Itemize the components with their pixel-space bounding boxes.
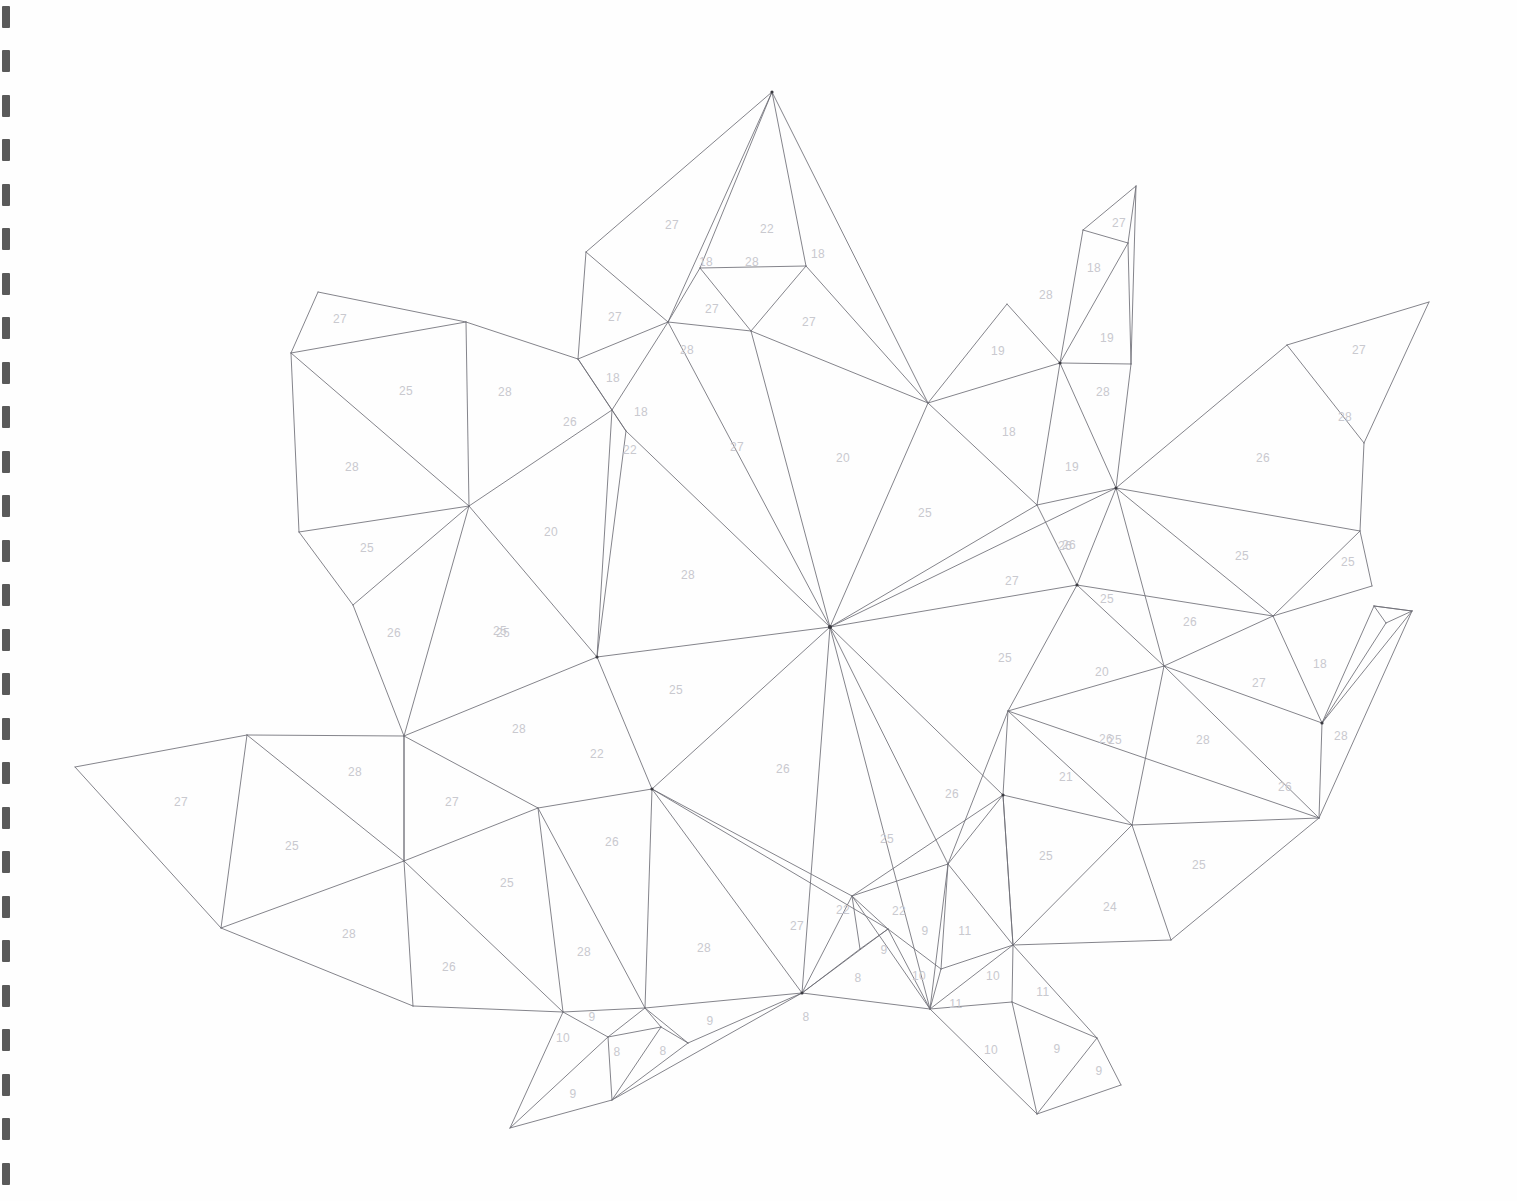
face-label: 26 — [945, 787, 959, 801]
face-label: 26 — [1058, 539, 1072, 553]
face-label: 11 — [949, 997, 962, 1011]
face-label: 19 — [991, 344, 1005, 358]
face-label: 26 — [605, 835, 619, 849]
face-label: 18 — [1313, 657, 1327, 671]
face-label: 22 — [836, 903, 850, 917]
face-label: 28 — [1096, 385, 1110, 399]
face-label: 27 — [333, 312, 347, 326]
face-label: 28 — [697, 941, 711, 955]
face-label: 28 — [1334, 729, 1348, 743]
face-label: 9 — [706, 1014, 713, 1028]
face-label: 27 — [608, 310, 622, 324]
face-label: 25 — [669, 683, 683, 697]
face-label: 27 — [1352, 343, 1366, 357]
face-label: 25 — [500, 876, 514, 890]
face-label: 19 — [1065, 460, 1079, 474]
face-label: 26 — [1278, 780, 1292, 794]
face-number-labels: 2722181828272727282725281826182228272025… — [174, 216, 1366, 1101]
face-label: 9 — [880, 943, 887, 957]
face-label: 10 — [984, 1043, 998, 1057]
face-label: 27 — [445, 795, 459, 809]
face-label: 25 — [360, 541, 374, 555]
face-label: 27 — [1112, 216, 1126, 230]
face-label: 22 — [590, 747, 604, 761]
face-label: 18 — [1002, 425, 1016, 439]
face-label: 11 — [1036, 985, 1049, 999]
face-label: 18 — [811, 247, 825, 261]
face-label: 27 — [705, 302, 719, 316]
face-label: 25 — [1341, 555, 1355, 569]
face-label: 25 — [285, 839, 299, 853]
face-label: 25 — [1108, 733, 1122, 747]
face-label: 28 — [680, 343, 694, 357]
low-poly-leaf-diagram: 2722181828272727282725281826182228272025… — [0, 0, 1517, 1201]
face-label: 18 — [606, 371, 620, 385]
face-label: 11 — [958, 924, 971, 938]
face-label: 28 — [577, 945, 591, 959]
face-label: 27 — [730, 440, 744, 454]
scanned-page: 2722181828272727282725281826182228272025… — [0, 0, 1517, 1201]
face-label: 27 — [1252, 676, 1266, 690]
face-label: 27 — [665, 218, 679, 232]
face-label: 28 — [745, 255, 759, 269]
face-label: 26 — [776, 762, 790, 776]
face-label: 27 — [802, 315, 816, 329]
face-label: 10 — [912, 969, 926, 983]
face-label: 10 — [556, 1031, 570, 1045]
face-label: 8 — [802, 1010, 809, 1024]
face-label: 20 — [836, 451, 850, 465]
face-label: 25 — [1100, 592, 1114, 606]
face-label: 27 — [1005, 574, 1019, 588]
face-label: 24 — [1103, 900, 1117, 914]
face-label: 9 — [569, 1087, 576, 1101]
face-label: 18 — [1087, 261, 1101, 275]
face-label: 25 — [998, 651, 1012, 665]
face-label: 22 — [892, 904, 906, 918]
face-label: 9 — [921, 924, 928, 938]
face-label: 10 — [986, 969, 1000, 983]
face-label: 21 — [1059, 770, 1073, 784]
face-label: 27 — [790, 919, 804, 933]
face-label: 28 — [1039, 288, 1053, 302]
face-label: 25 — [1235, 549, 1249, 563]
face-label: 8 — [659, 1044, 666, 1058]
face-label: 28 — [348, 765, 362, 779]
face-label: 28 — [1196, 733, 1210, 747]
face-label: 28 — [342, 927, 356, 941]
papercraft-template-sheet: 2722181828272727282725281826182228272025… — [0, 0, 1517, 1201]
face-label: 28 — [1338, 410, 1352, 424]
face-label: 27 — [174, 795, 188, 809]
face-label: 8 — [613, 1045, 620, 1059]
face-label: 25 — [880, 832, 894, 846]
face-label: 25 — [918, 506, 932, 520]
face-label: 28 — [498, 385, 512, 399]
face-label: 22 — [623, 443, 637, 457]
face-label: 25 — [1192, 858, 1206, 872]
face-label: 20 — [1095, 665, 1109, 679]
face-label: 25 — [1039, 849, 1053, 863]
face-label: 19 — [1100, 331, 1114, 345]
leaf-edges — [75, 92, 1429, 1128]
face-label: 22 — [760, 222, 774, 236]
face-label: 9 — [1095, 1064, 1102, 1078]
face-label: 8 — [854, 971, 861, 985]
face-label: 18 — [699, 255, 713, 269]
face-label: 9 — [588, 1010, 595, 1024]
face-label: 26 — [563, 415, 577, 429]
face-label: 26 — [442, 960, 456, 974]
face-vertices — [595, 90, 1323, 994]
face-label: 9 — [1053, 1042, 1060, 1056]
face-label: 26 — [1183, 615, 1197, 629]
face-label: 28 — [345, 460, 359, 474]
face-label: 28 — [512, 722, 526, 736]
face-label: 26 — [1256, 451, 1270, 465]
face-label: 18 — [634, 405, 648, 419]
face-label: 28 — [681, 568, 695, 582]
face-label: 25 — [399, 384, 413, 398]
face-label: 20 — [544, 525, 558, 539]
face-label: 26 — [387, 626, 401, 640]
face-label: 25 — [493, 624, 507, 638]
